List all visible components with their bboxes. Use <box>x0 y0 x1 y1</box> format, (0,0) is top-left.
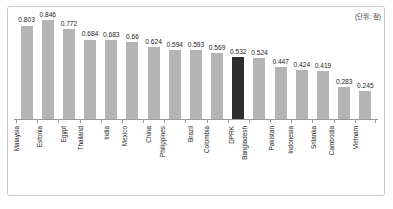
bar-value-label: 0.684 <box>82 31 99 38</box>
x-axis-ticks <box>16 120 376 124</box>
axis-tick <box>164 120 185 124</box>
bar-value-label: 0.569 <box>209 45 226 52</box>
bar-indonesia[interactable] <box>296 70 308 120</box>
bar-value-label: 0.593 <box>188 42 205 49</box>
category-slot: Malaysia <box>16 126 37 188</box>
category-label-vietnam: Vietnam <box>354 126 360 149</box>
bar-slot: 0.684 <box>80 20 101 120</box>
category-label-bangladesh: Bangladesh <box>243 126 249 160</box>
bar-slot: 0.569 <box>207 20 228 120</box>
bar-value-label: 0.524 <box>251 50 268 57</box>
bar-malaysia[interactable] <box>21 26 33 120</box>
bar-wrapper: 0.594 <box>164 50 185 120</box>
bar-slot: 0.419 <box>312 20 333 120</box>
bar-wrapper: 0.683 <box>101 40 122 120</box>
bar-estonia[interactable] <box>42 20 54 120</box>
bar-wrapper: 0.803 <box>16 26 37 120</box>
bar-dprk[interactable] <box>232 57 244 120</box>
category-label-cambodia: Cambodia <box>330 126 336 155</box>
category-label-india: India <box>104 126 110 140</box>
plot-area: 0.8030.8460.7720.6840.6830.660.6240.5940… <box>16 20 376 120</box>
bar-wrapper: 0.772 <box>58 29 79 120</box>
bar-wrapper: 0.524 <box>249 58 270 120</box>
category-label-china: China <box>145 126 151 143</box>
category-label-dprk: DPRK <box>229 126 235 144</box>
bar-wrapper: 0.245 <box>355 91 376 120</box>
category-label-malaysia: Malaysia <box>14 126 20 151</box>
axis-tick <box>228 120 249 124</box>
x-axis-category-labels: MalaysiaEstoniaEgyptThailandIndiaMexicoC… <box>16 126 376 188</box>
bar-value-label: 0.772 <box>61 21 78 28</box>
axis-tick <box>249 120 270 124</box>
bar-wrapper: 0.593 <box>185 50 206 120</box>
axis-tick <box>312 120 333 124</box>
category-label-colombia: Colombia <box>204 126 210 153</box>
bar-cambodia[interactable] <box>338 87 350 120</box>
bar-vietnam[interactable] <box>359 91 371 120</box>
category-label-brazil: Brazil <box>188 126 194 142</box>
bar-philippines[interactable] <box>169 50 181 120</box>
chart-figure: (단위: 점) 0.8030.8460.7720.6840.6830.660.6… <box>0 0 393 209</box>
category-slot: Indonesia <box>291 126 312 188</box>
category-slot: India <box>101 126 122 188</box>
axis-tick <box>207 120 228 124</box>
bar-slot: 0.245 <box>355 20 376 120</box>
category-slot: Philippines <box>164 126 185 188</box>
bar-wrapper: 0.424 <box>291 70 312 120</box>
axis-tick <box>122 120 143 124</box>
bar-india[interactable] <box>105 40 117 120</box>
bar-slot: 0.524 <box>249 20 270 120</box>
bar-value-label: 0.624 <box>145 39 162 46</box>
bar-slot: 0.532 <box>228 20 249 120</box>
bar-value-label: 0.532 <box>230 49 247 56</box>
bar-slot: 0.846 <box>37 20 58 120</box>
bar-slot: 0.447 <box>270 20 291 120</box>
category-slot: Thailand <box>80 126 101 188</box>
bar-value-label: 0.283 <box>336 79 353 86</box>
bar-value-label: 0.846 <box>39 12 56 19</box>
bar-wrapper: 0.624 <box>143 47 164 120</box>
bar-value-label: 0.66 <box>126 34 139 41</box>
bar-value-label: 0.803 <box>18 17 35 24</box>
bar-value-label: 0.683 <box>103 32 120 39</box>
bar-thailand[interactable] <box>84 40 96 120</box>
bar-wrapper: 0.846 <box>37 20 58 120</box>
category-label-indonesia: Indonesia <box>288 126 294 154</box>
bar-srilanka[interactable] <box>317 71 329 120</box>
category-label-philippines: Philippines <box>159 126 165 157</box>
bar-value-label: 0.447 <box>272 59 289 66</box>
bar-value-label: 0.245 <box>357 83 374 90</box>
axis-tick <box>334 120 355 124</box>
axis-tick <box>16 120 37 124</box>
bar-slot: 0.283 <box>334 20 355 120</box>
bar-bangladesh[interactable] <box>253 58 265 120</box>
category-slot: Vietnam <box>355 126 376 188</box>
bar-china[interactable] <box>148 47 160 120</box>
bar-slot: 0.803 <box>16 20 37 120</box>
bar-slot: 0.593 <box>185 20 206 120</box>
bar-value-label: 0.419 <box>315 63 332 70</box>
bar-brazil[interactable] <box>190 50 202 120</box>
axis-tick <box>80 120 101 124</box>
bar-slot: 0.772 <box>58 20 79 120</box>
axis-tick <box>291 120 312 124</box>
category-label-srilanka: Srilanka <box>311 126 317 149</box>
bar-slot: 0.594 <box>164 20 185 120</box>
axis-tick <box>37 120 58 124</box>
bar-mexico[interactable] <box>126 42 138 120</box>
bar-slot: 0.683 <box>101 20 122 120</box>
bar-value-label: 0.424 <box>294 62 311 69</box>
category-slot: Colombia <box>207 126 228 188</box>
axis-tick <box>270 120 291 124</box>
bar-slot: 0.624 <box>143 20 164 120</box>
bar-value-label: 0.594 <box>167 42 184 49</box>
bar-pakistan[interactable] <box>275 67 287 120</box>
category-label-mexico: Mexico <box>122 126 128 146</box>
bar-egypt[interactable] <box>63 29 75 120</box>
bar-slot: 0.66 <box>122 20 143 120</box>
category-label-thailand: Thailand <box>78 126 84 151</box>
axis-tick <box>143 120 164 124</box>
axis-tick <box>101 120 122 124</box>
bar-colombia[interactable] <box>211 53 223 120</box>
category-slot: Estonia <box>37 126 58 188</box>
